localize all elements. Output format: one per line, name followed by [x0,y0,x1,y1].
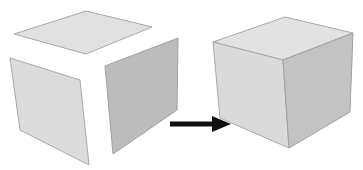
exploded-left-face [10,58,89,165]
exploded-right-face [105,38,178,154]
diagram-canvas [0,0,363,170]
assembled-cube [213,17,353,148]
cube-assembly-diagram [0,0,363,170]
exploded-top-face [14,11,152,54]
exploded-cube [10,11,178,165]
